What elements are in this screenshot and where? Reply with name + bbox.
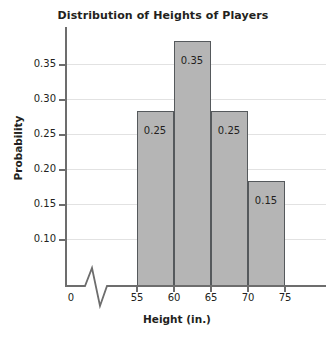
y-tick-0-35 — [59, 64, 67, 66]
bar-60-65 — [174, 41, 211, 286]
y-axis-line — [65, 27, 67, 287]
x-axis-label-75: 75 — [268, 292, 302, 304]
x-axis-line-right-segment — [108, 285, 326, 287]
x-axis-label-65: 65 — [194, 292, 228, 304]
bar-55-60 — [137, 111, 174, 286]
x-axis-title: Height (in.) — [66, 313, 288, 325]
axis-break-zigzag-icon — [66, 262, 116, 318]
y-tick-0-10 — [59, 239, 67, 241]
y-axis-label-0-35: 0.35 — [12, 59, 56, 69]
bar-value-60-65: 0.35 — [172, 55, 212, 66]
x-axis-label-55: 55 — [120, 292, 154, 304]
x-axis-label-0: 0 — [54, 292, 88, 304]
x-axis-label-60: 60 — [157, 292, 191, 304]
y-tick-0-30 — [59, 99, 67, 101]
y-tick-0-15 — [59, 204, 67, 206]
bar-value-65-70: 0.25 — [209, 125, 249, 136]
x-axis-label-70: 70 — [231, 292, 265, 304]
y-tick-0-25 — [59, 134, 67, 136]
bar-value-55-60: 0.25 — [135, 125, 175, 136]
bar-65-70 — [211, 111, 248, 286]
bar-value-70-75: 0.15 — [246, 195, 286, 206]
y-axis-label-0-10: 0.10 — [12, 234, 56, 244]
y-axis-title: Probability — [12, 88, 24, 208]
y-tick-0-20 — [59, 169, 67, 171]
histogram-chart: Distribution of Heights of Players 0.25 … — [0, 0, 326, 339]
chart-title: Distribution of Heights of Players — [0, 9, 326, 22]
